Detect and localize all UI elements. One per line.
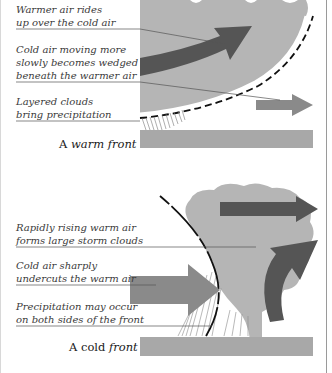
cold-front-ground	[140, 337, 313, 356]
cold-label-precipitation: Precipitation may occur on both sides of…	[16, 300, 144, 326]
cold-label-undercuts: Cold air sharply undercuts the warm air	[16, 259, 136, 285]
warm-front-ground	[140, 130, 313, 148]
cold-label-rising-warm-air: Rapidly rising warm air forms large stor…	[16, 221, 143, 247]
cold-air-arrow-warm	[256, 94, 313, 116]
weather-fronts-diagram: Warmer air rides up over the cold air Co…	[0, 0, 332, 373]
warm-label-layered-clouds: Layered clouds bring precipitation	[16, 95, 112, 121]
warm-front-title: A warm front	[59, 137, 136, 151]
warm-label-cold-air-wedged: Cold air moving more slowly becomes wedg…	[16, 43, 138, 82]
warm-label-warmer-air: Warmer air rides up over the cold air	[16, 3, 115, 29]
cold-front-title: A cold front	[69, 340, 138, 354]
